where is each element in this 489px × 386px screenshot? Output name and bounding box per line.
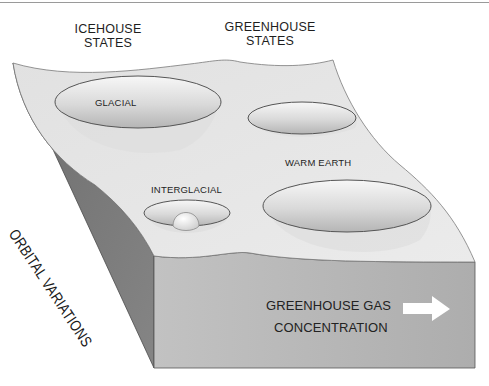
concentration-label: CONCENTRATION [274, 320, 388, 335]
glacial-label: GLACIAL [95, 97, 137, 108]
glacial-state-well [55, 76, 221, 128]
interglacial-label: INTERGLACIAL [151, 184, 222, 195]
icehouse-line-2: STATES [73, 36, 143, 50]
greenhouse-states-label: GREENHOUSE STATES [222, 20, 318, 48]
greenhouse-line-1: GREENHOUSE [222, 20, 318, 34]
greenhouse-gas-label: GREENHOUSE GAS [266, 298, 391, 313]
icehouse-line-1: ICEHOUSE [73, 22, 143, 36]
warm-earth-label: WARM EARTH [285, 157, 351, 168]
warm-earth-state-well [263, 180, 431, 232]
icehouse-states-label: ICEHOUSE STATES [73, 22, 143, 50]
greenhouse-state-well [248, 102, 356, 134]
greenhouse-line-2: STATES [222, 34, 318, 48]
